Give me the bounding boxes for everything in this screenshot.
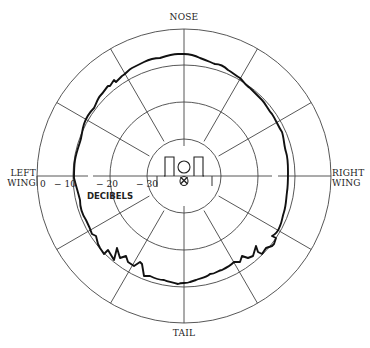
polar-diagram (0, 0, 370, 348)
tail-label: TAIL (166, 328, 202, 338)
spoke-210 (111, 211, 165, 304)
tick-label-0: 0 (40, 179, 46, 189)
spoke-60 (219, 103, 312, 157)
left-wing-label: LEFT WING (0, 168, 36, 188)
decibels-label: DECIBELS (87, 191, 133, 201)
aircraft-icon (164, 157, 204, 186)
spoke-300 (57, 103, 150, 157)
tick-label-minus20: − 20 (96, 179, 118, 189)
spoke-240 (57, 196, 150, 250)
right-wing-label-line2: WING (332, 178, 370, 188)
left-wing-label-line1: LEFT (0, 168, 36, 178)
right-wing-label: RIGHT WING (332, 168, 370, 188)
nose-label: NOSE (163, 12, 205, 22)
left-wing-label-line2: WING (0, 178, 36, 188)
spoke-120 (219, 196, 312, 250)
tick-label-minus10: − 10 (54, 179, 76, 189)
spoke-330 (111, 49, 165, 142)
right-wing-label-line1: RIGHT (332, 168, 370, 178)
tick-label-minus30: − 30 (136, 179, 158, 189)
